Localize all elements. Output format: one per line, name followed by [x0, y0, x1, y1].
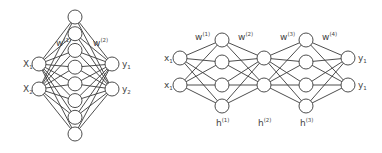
deep-network-hidden-1-node	[215, 55, 229, 69]
deep-network-weight-label: w(2)	[238, 31, 253, 42]
deep-network-weight-label: w(3)	[280, 31, 295, 42]
shallow-network-hidden-node	[68, 110, 82, 124]
shallow-network-output-node	[105, 57, 119, 71]
deep-network-weight-label: w(1)	[195, 31, 210, 42]
deep-network-hidden-1-node	[215, 78, 229, 92]
shallow-network-input-label: X1	[23, 59, 33, 70]
shallow-network-input-node	[32, 57, 46, 71]
shallow-network-hidden-node	[68, 10, 82, 24]
deep-network-output-label: y1	[358, 53, 367, 64]
deep-network-hidden-3-node	[299, 55, 313, 69]
deep-network-weight-label: w(4)	[322, 31, 337, 42]
shallow-network-hidden-node	[68, 77, 82, 91]
shallow-network-hidden-node	[68, 94, 82, 108]
shallow-network-weight-label: w(2)	[93, 37, 108, 48]
deep-network-hidden-3-node	[299, 99, 313, 113]
deep-network-hidden-3-node	[299, 78, 313, 92]
deep-network-hidden-2-node	[257, 78, 271, 92]
deep-network-hidden-1-node	[215, 33, 229, 47]
deep-network-output-label: y1	[358, 80, 367, 91]
deep-network-hidden-2-node	[257, 51, 271, 65]
deep-network-hidden-label: h(3)	[300, 117, 314, 128]
deep-network-input-label: x1	[164, 80, 173, 91]
deep-network-hidden-label: h(1)	[216, 117, 230, 128]
shallow-network-output-label: y1	[122, 59, 131, 70]
deep-network-input-node	[173, 51, 187, 65]
deep-network-input-label: x1	[164, 53, 173, 64]
deep-network-hidden-3-node	[299, 33, 313, 47]
shallow-network-hidden-node	[68, 127, 82, 141]
deep-network-output-node	[341, 78, 355, 92]
deep-network-hidden-label: h(2)	[258, 117, 272, 128]
shallow-network-input-label: X2	[23, 84, 33, 95]
shallow-network-output-label: y2	[122, 84, 131, 95]
deep-network-output-node	[341, 51, 355, 65]
deep-network-input-node	[173, 78, 187, 92]
shallow-network-hidden-node	[68, 60, 82, 74]
neural-network-diagrams: X1X2y1y2w(1)w(2)x1x1y1y1w(1)w(2)w(3)w(4)…	[0, 0, 382, 153]
shallow-network-hidden-node	[68, 43, 82, 57]
shallow-network-input-node	[32, 82, 46, 96]
deep-network-hidden-1-node	[215, 99, 229, 113]
shallow-network-output-node	[105, 82, 119, 96]
